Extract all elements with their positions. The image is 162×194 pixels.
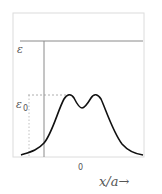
double-peak-curve [21,95,143,155]
epsilon-label: ε [17,43,23,56]
epsilon0-subscript: 0 [23,104,28,113]
plot-frame [13,13,144,157]
potential-diagram: ε ε 0 0 x/a→ [0,0,162,194]
x-axis-label: x/a→ [99,174,129,189]
origin-label: 0 [78,163,83,172]
epsilon0-label: ε [16,98,22,111]
